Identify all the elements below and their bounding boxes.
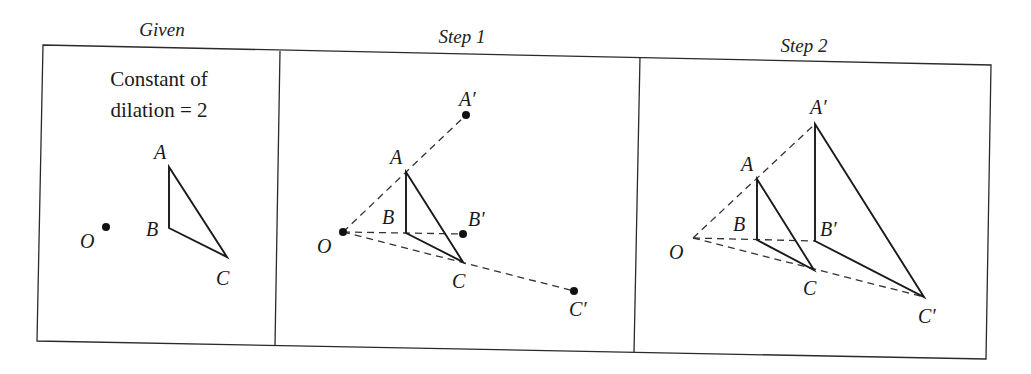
point-b-prime [459, 230, 467, 238]
ray-oa [693, 124, 815, 238]
label-o: O [80, 230, 94, 252]
label-b-prime: B′ [820, 218, 837, 240]
label-c-prime: C′ [918, 305, 936, 327]
label-b: B [146, 218, 158, 240]
center-point-o [102, 223, 110, 231]
center-point-o [339, 228, 347, 236]
label-c: C [216, 267, 230, 289]
panel-given: Given Constant of dilation = 2 O A B C [80, 19, 230, 289]
outer-border [37, 45, 991, 359]
label-c: C [803, 277, 817, 299]
panel-frame [37, 45, 991, 359]
triangle-a-prime-b-prime-c-prime [815, 124, 924, 297]
label-a: A [152, 141, 167, 163]
panel-title-given: Given [139, 19, 184, 40]
label-a: A [739, 153, 754, 175]
label-b-prime: B′ [468, 208, 485, 230]
panel-title-step2: Step 2 [781, 35, 828, 56]
label-a: A [388, 146, 403, 168]
label-c: C [452, 270, 466, 292]
divider-1 [275, 51, 280, 346]
dilation-caption-line1: Constant of [110, 67, 207, 91]
label-o: O [669, 241, 683, 263]
divider-2 [634, 57, 640, 353]
triangle-abc [406, 172, 463, 262]
label-b: B [733, 213, 745, 235]
label-a-prime: A′ [808, 96, 827, 118]
ray-ob [693, 238, 815, 241]
panel-step1: Step 1 O A B C A′ B′ C′ [317, 26, 587, 320]
label-a-prime: A′ [457, 88, 476, 110]
label-c-prime: C′ [569, 298, 587, 320]
dilation-figure: Given Constant of dilation = 2 O A B C S… [0, 0, 1031, 374]
panel-title-step1: Step 1 [439, 26, 486, 47]
dilation-caption-line2: dilation = 2 [110, 98, 207, 122]
point-a-prime [462, 111, 470, 119]
panel-step2: Step 2 O A B C A′ B′ C′ [669, 35, 936, 327]
triangle-abc [169, 167, 227, 257]
label-o: O [317, 235, 331, 257]
label-b: B [382, 206, 394, 228]
ray-oa [343, 115, 466, 232]
point-c-prime [570, 287, 578, 295]
